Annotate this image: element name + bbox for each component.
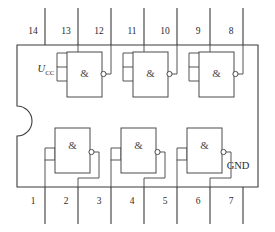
pin-number-12: 12: [94, 26, 104, 36]
gate-bottom-2-symbol: &: [134, 139, 143, 151]
gate-top-1-output-wire: [105, 45, 111, 74]
gate-top-2-symbol: &: [146, 67, 155, 79]
ic-pinout-diagram: & & & &: [0, 0, 275, 232]
pin-number-7: 7: [229, 196, 234, 206]
pin-number-8: 8: [229, 26, 234, 36]
pin-number-6: 6: [196, 196, 201, 206]
gate-top-3-input-b-wire: [189, 67, 199, 81]
gate-bottom-2: &: [111, 128, 165, 187]
pin-number-14: 14: [28, 26, 38, 36]
gate-top-3: &: [189, 45, 243, 97]
gate-bottom-3: &: [177, 128, 231, 187]
gate-top-1-inverter-bubble: [101, 71, 106, 76]
pin-number-2: 2: [64, 196, 69, 206]
gate-bottom-2-input-b-wire: [111, 148, 121, 160]
gate-top-3-inverter-bubble: [233, 71, 238, 76]
gnd-label: GND: [227, 160, 250, 171]
gate-bottom-2-inverter-bubble: [155, 149, 160, 154]
ic-diagram-canvas: & & & &: [0, 0, 275, 232]
pin-number-1: 1: [31, 196, 36, 206]
bottom-pin-numbers: 1 2 3 4 5 6 7: [31, 196, 234, 206]
pin-number-5: 5: [163, 196, 168, 206]
vcc-subscript: CC: [45, 69, 55, 77]
bottom-pin-leads: [45, 187, 243, 224]
gate-bottom-3-input-b-wire: [177, 148, 187, 160]
top-pin-leads: [45, 8, 243, 45]
gate-top-1: &: [57, 45, 111, 97]
pin-number-10: 10: [160, 26, 170, 36]
gate-top-3-output-wire: [237, 45, 243, 74]
gate-bottom-3-input-a-wire: [177, 148, 187, 187]
gate-top-3-symbol: &: [212, 67, 221, 79]
gate-bottom-1-symbol: &: [68, 139, 77, 151]
pin-number-13: 13: [61, 26, 71, 36]
gate-top-2-output-wire: [171, 45, 177, 74]
gate-top-2-input-b-wire: [123, 67, 133, 81]
gate-bottom-1: &: [45, 128, 99, 187]
pin-number-4: 4: [130, 196, 135, 206]
gate-top-2: &: [123, 45, 177, 97]
gate-bottom-2-input-a-wire: [111, 148, 121, 187]
gate-bottom-1-input-b-wire: [45, 148, 55, 160]
pin-number-9: 9: [196, 26, 201, 36]
vcc-label: UCC: [38, 63, 55, 77]
gate-bottom-1-inverter-bubble: [89, 149, 94, 154]
gate-top-1-input-b-wire: [57, 67, 67, 81]
pin-number-3: 3: [97, 196, 102, 206]
pin-number-11: 11: [127, 26, 136, 36]
top-pin-numbers: 14 13 12 11 10 9 8: [28, 26, 233, 36]
gate-bottom-1-input-a-wire: [45, 148, 55, 187]
gate-top-2-inverter-bubble: [167, 71, 172, 76]
gate-top-1-symbol: &: [80, 67, 89, 79]
gate-bottom-3-symbol: &: [200, 139, 209, 151]
gate-bottom-3-inverter-bubble: [221, 149, 226, 154]
